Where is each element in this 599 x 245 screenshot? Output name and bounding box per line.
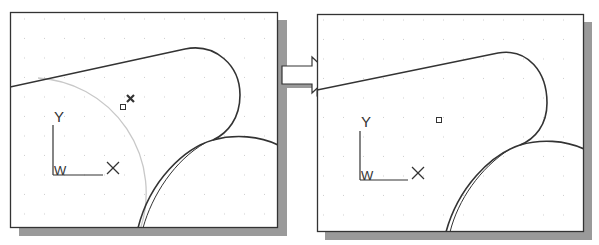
grid-dots [317, 14, 584, 232]
panel-before: Y W [10, 12, 287, 236]
ucs-y-label: Y [361, 113, 371, 130]
panel-after: Y W [317, 14, 592, 240]
pickbox-square-icon [121, 105, 126, 110]
ucs-y-label: Y [54, 108, 64, 125]
comparison-figure: Y W Y W [0, 0, 599, 245]
ucs-w-label: W [54, 163, 67, 178]
pickbox-square-icon [437, 118, 442, 123]
ucs-w-label: W [361, 168, 374, 183]
grid-dots [10, 12, 278, 228]
